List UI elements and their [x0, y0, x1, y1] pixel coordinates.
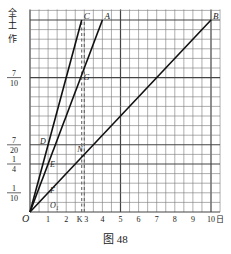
point-label: F [49, 186, 55, 195]
x-tick-label: K [77, 215, 83, 224]
x-tick-label: 4 [100, 215, 104, 224]
series-end-label: B [213, 11, 219, 21]
y-tick-numerator: 7 [12, 136, 16, 145]
series-end-label: C [84, 11, 91, 21]
x-tick-label: 3 [84, 215, 88, 224]
point-label: D [39, 137, 46, 146]
y-tick-denominator: 4 [12, 165, 16, 174]
y-axis-title: 全 工 作 [8, 7, 17, 44]
point-label: G [84, 73, 90, 82]
figure-caption: 图 48 [103, 233, 128, 245]
point-label: E [49, 160, 55, 169]
x-tick-label: 8 [173, 215, 177, 224]
y-axis-title-char: 工 [8, 21, 17, 31]
x-axis-unit: 日 [216, 215, 224, 224]
x-tick-label: 7 [155, 215, 159, 224]
x-tick-label: 1 [46, 215, 50, 224]
y-tick-denominator: 20 [10, 146, 18, 155]
x-tick-label: 5 [119, 215, 123, 224]
series-end-label: A [103, 11, 110, 21]
x-tick-label: 10 [207, 215, 215, 224]
y-axis-title-char: 作 [8, 33, 17, 44]
series-lines: CAB [30, 11, 219, 212]
x-tick-label: 6 [137, 215, 141, 224]
y-tick-numerator: 1 [12, 184, 16, 193]
origin-label: O [22, 213, 29, 224]
x-tick-labels: 12K345678910 [46, 215, 215, 224]
y-tick-numerator: 1 [12, 155, 16, 164]
y-tick-denominator: 10 [10, 194, 18, 203]
y-tick-numerator: 7 [12, 69, 16, 78]
y-axis-title-char: 全 [8, 7, 17, 18]
x-tick-label: 9 [191, 215, 195, 224]
y-tick-denominator: 10 [10, 79, 18, 88]
point-label: O₁ [50, 201, 59, 210]
figure-48: CAB 110147207101 12K345678910 GDENFO₁ 全 … [0, 0, 231, 254]
point-label: N [76, 145, 83, 154]
x-tick-label: 2 [64, 215, 68, 224]
